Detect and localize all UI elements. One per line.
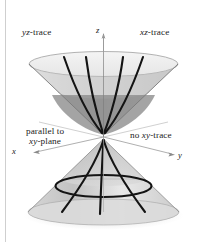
yz-trace-label: yz-trace — [22, 27, 51, 37]
yz-trace-label-suffix: -trace — [30, 27, 52, 37]
cone-figure: yz-trace xz-trace parallel to xy-plane n… — [0, 0, 207, 242]
xz-trace-label-suffix: -trace — [148, 27, 170, 37]
yz-trace-label-italic: yz — [22, 27, 30, 37]
x-axis-arrowhead — [33, 150, 40, 154]
parallel-to-xy-plane-label: parallel to xy-plane — [26, 126, 64, 147]
y-axis-label: y — [178, 151, 182, 161]
xz-trace-label-italic: xz — [140, 27, 148, 37]
xy-plane-suffix: -plane — [37, 136, 61, 146]
no-xy-trace-label: no xy-trace — [130, 130, 172, 140]
xz-trace-label: xz-trace — [140, 27, 169, 37]
z-axis-label: z — [96, 26, 99, 36]
no-xy-trace-suffix: -trace — [150, 130, 172, 140]
parallel-to-label-line1: parallel to — [26, 126, 64, 136]
no-xy-trace-italic: xy — [142, 130, 150, 140]
x-axis-label: x — [12, 147, 16, 157]
no-xy-trace-prefix: no — [130, 130, 142, 140]
y-axis-arrowhead — [168, 153, 175, 157]
parallel-to-label-line2: xy-plane — [26, 136, 64, 146]
